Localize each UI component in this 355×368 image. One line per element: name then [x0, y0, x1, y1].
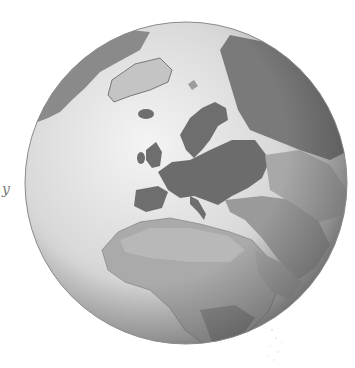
globe-image: y	[0, 0, 355, 368]
globe-shading	[25, 22, 347, 344]
speckle-noise	[268, 329, 283, 360]
globe	[0, 0, 355, 368]
